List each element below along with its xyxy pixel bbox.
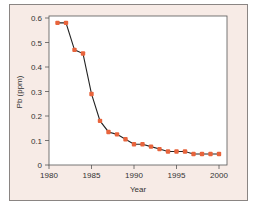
data-point xyxy=(174,149,178,153)
y-axis-label: Pb (ppm) xyxy=(15,75,24,108)
data-point xyxy=(72,48,76,52)
data-point xyxy=(55,21,59,25)
y-axis: 00.10.20.30.40.50.6 xyxy=(31,14,49,170)
y-tick-label: 0.3 xyxy=(31,88,43,97)
data-point xyxy=(166,149,170,153)
data-point xyxy=(208,152,212,156)
data-point xyxy=(140,142,144,146)
data-point xyxy=(217,152,221,156)
data-point xyxy=(106,130,110,134)
data-point xyxy=(115,132,119,136)
y-tick-label: 0 xyxy=(38,161,43,170)
data-point xyxy=(123,137,127,141)
x-tick-label: 2000 xyxy=(210,171,228,180)
x-axis-label: Year xyxy=(130,185,147,194)
x-tick-label: 1985 xyxy=(83,171,101,180)
line-chart: 00.10.20.30.40.50.6 19801985199019952000… xyxy=(0,0,254,206)
data-point xyxy=(200,152,204,156)
x-tick-label: 1995 xyxy=(168,171,186,180)
plot-area xyxy=(49,16,227,165)
data-point xyxy=(81,51,85,55)
data-point xyxy=(64,21,68,25)
data-point xyxy=(98,119,102,123)
y-tick-label: 0.1 xyxy=(31,137,43,146)
data-point xyxy=(157,147,161,151)
data-point xyxy=(132,142,136,146)
data-point xyxy=(183,149,187,153)
data-point xyxy=(191,152,195,156)
data-point xyxy=(89,92,93,96)
x-axis: 19801985199019952000 xyxy=(40,165,228,180)
y-tick-label: 0.5 xyxy=(31,39,43,48)
x-tick-label: 1980 xyxy=(40,171,58,180)
x-tick-label: 1990 xyxy=(125,171,143,180)
y-tick-label: 0.4 xyxy=(31,63,43,72)
data-point xyxy=(149,144,153,148)
y-tick-label: 0.2 xyxy=(31,112,43,121)
y-tick-label: 0.6 xyxy=(31,14,43,23)
